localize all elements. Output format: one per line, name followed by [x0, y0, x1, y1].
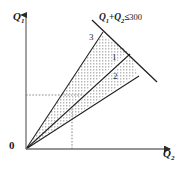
diagram-svg: [0, 0, 187, 171]
constraint-limit: 300: [129, 12, 142, 22]
x-axis-label-text: Q: [163, 147, 171, 159]
ray-1-label: 1: [112, 53, 117, 62]
constraint-term-a: Q: [99, 12, 106, 22]
ray-3-line: [26, 32, 103, 149]
y-axis-label-text: Q: [13, 10, 21, 22]
origin-label: 0: [9, 140, 15, 151]
y-axis-label-sub: 1: [21, 17, 25, 25]
x-axis-label: Q2: [163, 148, 174, 162]
x-axis-label-sub: 2: [171, 154, 175, 162]
figure-canvas: Q1 Q2 0 3 1 2 Q1+Q2≤300: [0, 0, 187, 171]
constraint-label: Q1+Q2≤300: [99, 13, 142, 24]
ray-2-label: 2: [113, 72, 118, 81]
ray-3-label: 3: [89, 33, 94, 42]
y-axis-label: Q1: [13, 11, 24, 25]
constraint-term-b: Q: [114, 12, 121, 22]
ray-1-line: [26, 54, 130, 149]
